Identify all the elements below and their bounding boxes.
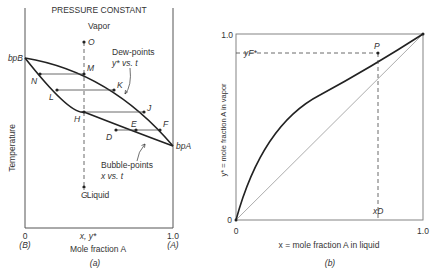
panel-a: O M N K L J H E F D G PRESSURE CONSTANT … [7, 5, 191, 268]
point-j [142, 110, 145, 113]
label-p: P [374, 41, 380, 51]
xd-label: xD [372, 206, 383, 216]
point-f [158, 128, 161, 131]
label-m: M [87, 63, 95, 73]
label-k: K [117, 80, 123, 90]
x-tick-1-sub: (A) [167, 240, 179, 250]
panel-a-ylabel: Temperature [7, 124, 17, 172]
bp-b-label: bpB [8, 53, 23, 63]
panel-b: P yF* xD 1.0 0 0 1.0 y* = mole fraction … [219, 30, 429, 268]
label-l: L [49, 92, 54, 102]
dew-points-sublabel: y* vs. t [111, 58, 138, 68]
bubble-points-label: Bubble-points [101, 160, 153, 170]
bubble-points-sublabel: x vs. t [100, 171, 124, 181]
label-h: H [74, 114, 81, 124]
yf-label: yF* [243, 48, 257, 58]
bubble-arrow [137, 144, 145, 161]
bubble-point-curve [25, 58, 173, 146]
label-f: F [163, 119, 169, 129]
panel-a-caption: (a) [90, 258, 101, 268]
diagonal-line [236, 34, 423, 220]
point-k [112, 88, 115, 91]
diagram-canvas: O M N K L J H E F D G PRESSURE CONSTANT … [0, 0, 434, 272]
label-j: J [146, 103, 152, 113]
top-right-point [422, 33, 425, 36]
y-tick-0: 0 [227, 215, 232, 225]
label-o: O [88, 37, 95, 47]
panel-a-title: PRESSURE CONSTANT [51, 5, 146, 15]
bp-a-label: bpA [176, 141, 191, 151]
x-tick-0-b: 0 [234, 226, 239, 236]
label-e: E [131, 119, 137, 129]
label-d: D [106, 132, 112, 142]
panel-b-xlabel: x = mole fraction A in liquid [279, 240, 380, 250]
y-tick-1: 1.0 [221, 30, 233, 40]
point-p [377, 52, 380, 55]
panel-b-caption: (b) [325, 258, 336, 268]
point-o [82, 40, 85, 43]
point-m [82, 72, 85, 75]
x-tick-mid: x, y* [79, 231, 97, 241]
point-g [82, 185, 85, 188]
vapor-region-label: Vapor [88, 21, 110, 31]
panel-b-ylabel: y* = mole fraction A in vapor [219, 83, 228, 177]
point-d [114, 128, 117, 131]
origin-point [235, 219, 238, 222]
point-n [38, 72, 41, 75]
x-tick-1-b: 1.0 [417, 226, 429, 236]
point-h [82, 110, 85, 113]
liquid-region-label: Liquid [87, 190, 110, 200]
x-tick-0-sub: (B) [19, 240, 31, 250]
panel-a-xlabel: Mole fraction A [70, 244, 127, 254]
label-n: N [31, 76, 38, 86]
dew-point-curve [25, 58, 173, 146]
dew-points-label: Dew-points [112, 47, 155, 57]
point-l [55, 88, 58, 91]
